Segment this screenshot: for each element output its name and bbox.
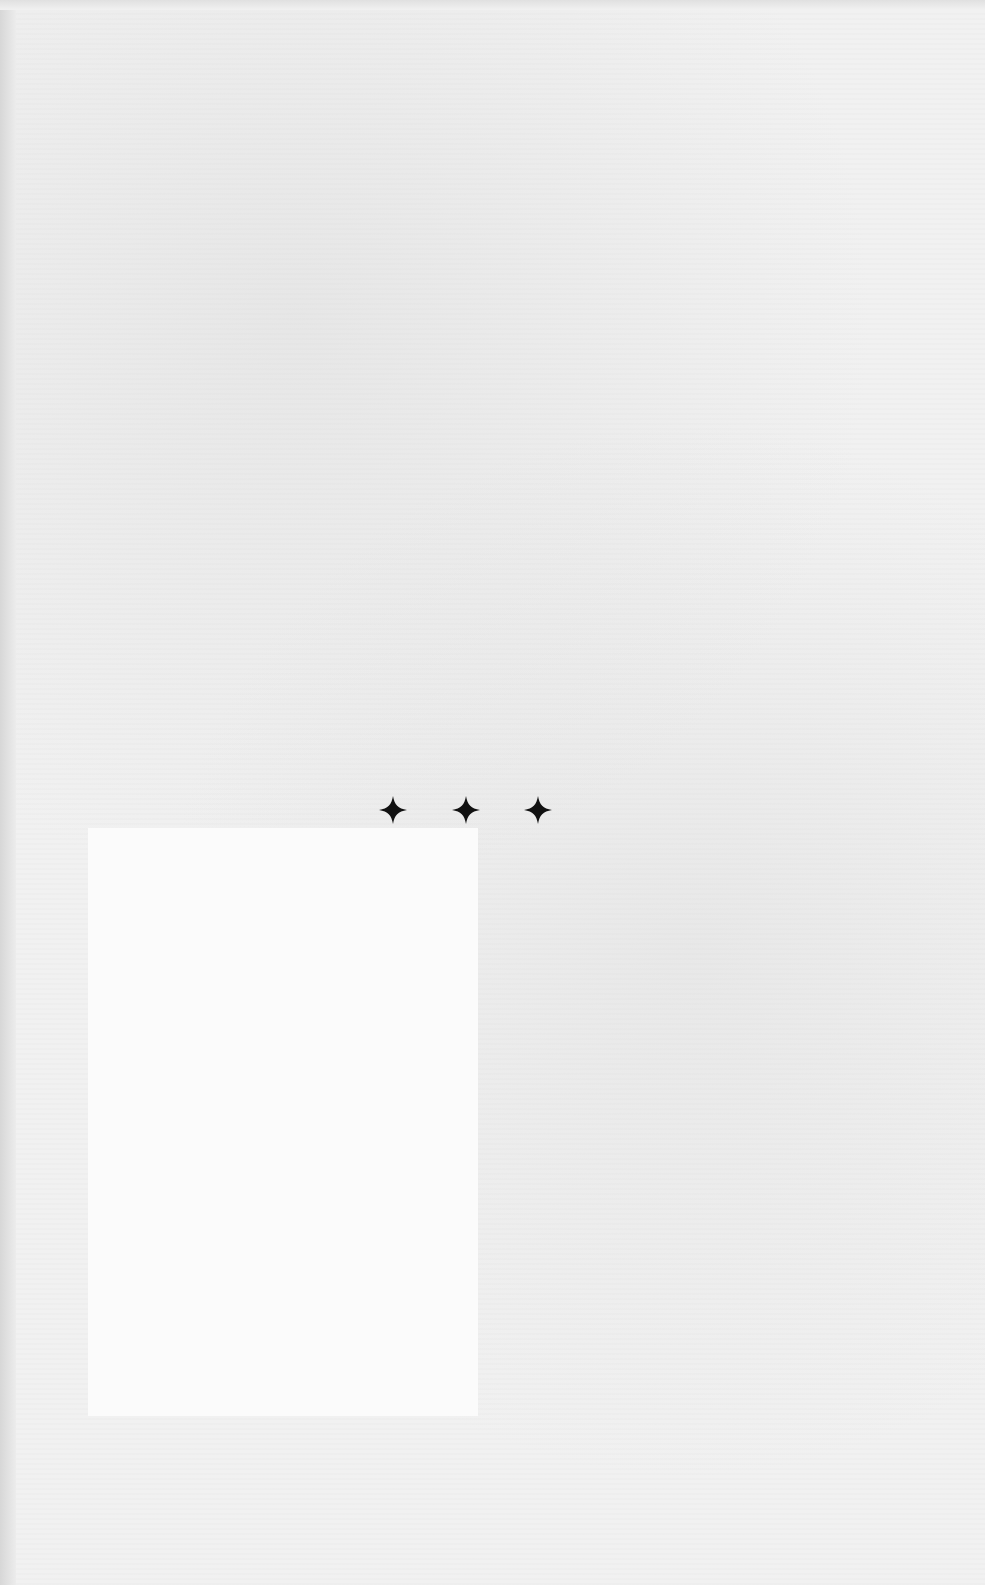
four-point-star-icon	[451, 795, 481, 825]
scanned-page	[0, 0, 985, 1585]
four-point-star-icon	[523, 795, 553, 825]
four-point-star-icon	[378, 795, 408, 825]
blank-area	[88, 828, 478, 1416]
page-top-edge	[0, 0, 985, 10]
section-break-ornament	[378, 793, 553, 827]
page-binding-edge	[0, 0, 16, 1585]
